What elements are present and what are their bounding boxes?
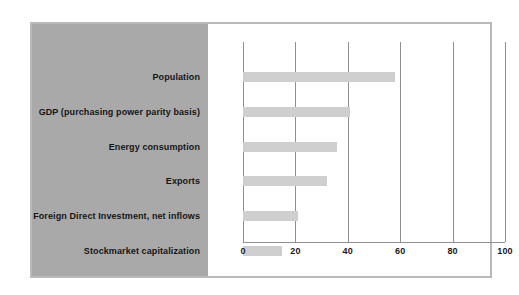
category-label-population: Population [32, 72, 200, 82]
bar-gdp [243, 107, 350, 117]
category-label-stockmarket-capitalization: Stockmarket capitalization [32, 246, 200, 256]
category-label-foreign-direct-investment: Foreign Direct Investment, net inflows [32, 211, 200, 221]
category-label-exports: Exports [32, 176, 200, 186]
plot-area: 0 20 40 60 80 100 [208, 24, 490, 276]
xtick-label-60: 60 [380, 246, 420, 256]
xtick-label-0: 0 [223, 246, 263, 256]
figure-canvas: Population GDP (purchasing power parity … [0, 0, 519, 295]
bar-exports [243, 176, 327, 186]
bar-foreign-direct-investment [243, 211, 298, 221]
bar-energy-consumption [243, 142, 337, 152]
gridline-80 [453, 42, 454, 242]
category-label-panel: Population GDP (purchasing power parity … [32, 24, 208, 276]
xtick-label-100: 100 [485, 246, 519, 256]
gridline-100 [505, 42, 506, 242]
xtick-label-20: 20 [275, 246, 315, 256]
category-label-energy-consumption: Energy consumption [32, 142, 200, 152]
bar-population [243, 72, 395, 82]
xtick-label-40: 40 [328, 246, 368, 256]
category-label-gdp: GDP (purchasing power parity basis) [32, 107, 200, 117]
gridline-60 [400, 42, 401, 242]
chart-frame: Population GDP (purchasing power parity … [30, 22, 492, 278]
xtick-label-80: 80 [433, 246, 473, 256]
x-axis-line [243, 242, 505, 243]
